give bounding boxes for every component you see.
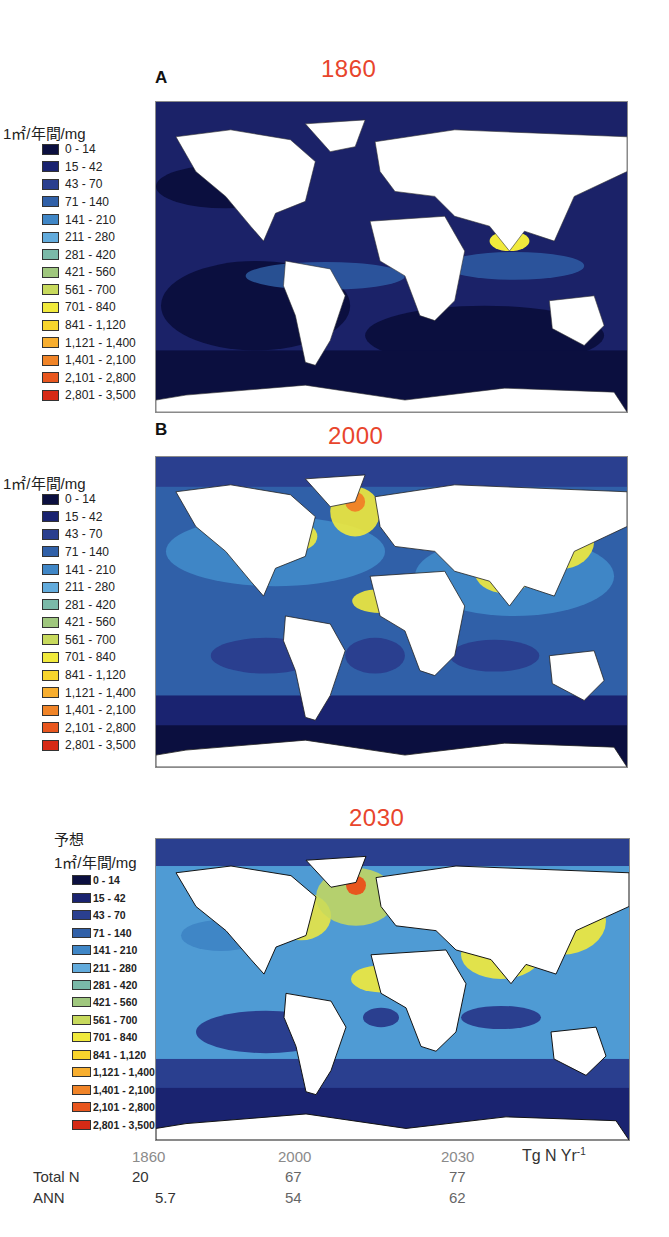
legend-label: 281 - 420 [65,248,116,262]
legend-item: 2,101 - 2,800 [72,1100,155,1114]
legend-label: 561 - 700 [65,633,116,647]
legend-label: 2,101 - 2,800 [65,371,136,385]
legend-item: 71 - 140 [42,195,136,209]
legend-swatch [42,390,59,401]
legend-unit-label-a: 1㎡/年間/mg [3,122,86,143]
legend-item: 141 - 210 [42,562,136,576]
map-1860 [155,101,628,413]
legend-label: 15 - 42 [65,160,102,174]
panel-letter-a: A [155,68,167,88]
legend-item: 841 - 1,120 [72,1048,155,1062]
legend-label: 701 - 840 [65,650,116,664]
legend-label: 211 - 280 [93,962,137,974]
legend-swatch [42,232,59,243]
summary-unit-sup: -1 [577,1146,586,1157]
legend-label: 0 - 14 [65,492,96,506]
legend-label: 15 - 42 [65,510,102,524]
legend-item: 141 - 210 [72,943,155,957]
legend-item: 2,801 - 3,500 [42,388,136,402]
map-2030 [155,838,630,1141]
legend-item: 43 - 70 [42,527,136,541]
legend-item: 2,801 - 3,500 [72,1118,155,1132]
legend-swatch [42,722,59,733]
row-label-ann: ANN [33,1189,65,1206]
legend-swatch [42,284,59,295]
legend-swatch [72,910,91,920]
panel-title-1860: 1860 [321,55,376,83]
ann-1860: 5.7 [155,1189,176,1206]
legend-swatch [72,945,91,955]
legend-label: 1,121 - 1,400 [65,336,136,350]
legend-label: 2,101 - 2,800 [93,1101,155,1113]
legend-swatch [42,564,59,575]
legend-item: 43 - 70 [72,908,155,922]
legend-item: 43 - 70 [42,177,136,191]
map-2000 [155,456,628,768]
legend-label: 421 - 560 [93,996,137,1008]
legend-swatch [72,1102,91,1112]
legend-swatch [72,893,91,903]
legend-label: 43 - 70 [65,177,102,191]
legend-swatch [42,337,59,348]
legend-item: 0 - 14 [42,142,136,156]
legend-item: 15 - 42 [42,510,136,524]
legend-swatch [42,705,59,716]
legend-swatch [42,196,59,207]
projection-label: 予想 [54,828,84,849]
legend-item: 211 - 280 [72,960,155,974]
legend-label: 1,401 - 2,100 [93,1084,155,1096]
legend-item: 71 - 140 [42,545,136,559]
legend-item: 0 - 14 [72,873,155,887]
total-n-2000: 67 [285,1168,302,1185]
summary-year-1860: 1860 [132,1148,165,1165]
legend-item: 0 - 14 [42,492,136,506]
legend-item: 421 - 560 [42,265,136,279]
legend-item: 1,401 - 2,100 [42,703,136,717]
legend-swatch [72,928,91,938]
legend-swatch [42,267,59,278]
legend-item: 2,101 - 2,800 [42,371,136,385]
summary-year-2000: 2000 [278,1148,311,1165]
legend-swatch [42,599,59,610]
legend-swatch [42,179,59,190]
panel-title-2000: 2000 [328,422,383,450]
legend-label: 141 - 210 [93,944,137,956]
legend-item: 1,121 - 1,400 [42,686,136,700]
legend-item: 2,101 - 2,800 [42,721,136,735]
legend-label: 141 - 210 [65,563,116,577]
legend-item: 211 - 280 [42,580,136,594]
legend-label: 1,121 - 1,400 [65,686,136,700]
legend-item: 701 - 840 [42,650,136,664]
legend-label: 701 - 840 [93,1031,137,1043]
legend-swatch [72,1032,91,1042]
row-label-total-n: Total N [33,1168,80,1185]
legend-label: 841 - 1,120 [93,1049,146,1061]
legend-label: 841 - 1,120 [65,318,126,332]
legend-label: 2,801 - 3,500 [93,1119,155,1131]
legend-item: 211 - 280 [42,230,136,244]
legend-label: 211 - 280 [65,580,115,594]
legend-swatch [42,249,59,260]
ann-2000: 54 [285,1189,302,1206]
legend-item: 281 - 420 [42,248,136,262]
legend-swatch [42,214,59,225]
legend-label: 141 - 210 [65,213,116,227]
legend-swatch [72,997,91,1007]
legend-item: 2,801 - 3,500 [42,738,136,752]
legend-label: 421 - 560 [65,615,116,629]
legend-swatch [42,582,59,593]
world-map-2030 [156,839,629,1140]
legend-label: 2,801 - 3,500 [65,738,136,752]
legend-item: 71 - 140 [72,925,155,939]
legend-label: 281 - 420 [65,598,116,612]
legend-label: 281 - 420 [93,979,137,991]
legend-item: 1,121 - 1,400 [72,1065,155,1079]
legend-swatch [42,634,59,645]
legend-item: 561 - 700 [72,1013,155,1027]
legend-swatch [42,302,59,313]
legend-swatch [72,1085,91,1095]
legend-swatch [72,875,91,885]
legend-label: 2,101 - 2,800 [65,721,136,735]
legend-label: 71 - 140 [93,927,132,939]
legend-label: 0 - 14 [93,874,120,886]
